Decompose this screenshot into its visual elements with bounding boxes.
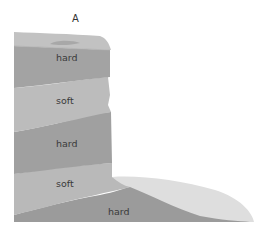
layer-label-soft-lower: soft — [56, 178, 74, 189]
diagram-title: A — [72, 13, 79, 24]
cliff-cross-section — [0, 0, 265, 237]
cliff-erosion-diagram: A hard soft hard soft hard — [0, 0, 265, 237]
layer-label-soft-upper: soft — [56, 95, 74, 106]
layer-label-hard-middle: hard — [56, 138, 78, 149]
layer-label-hard-bottom: hard — [108, 206, 130, 217]
layer-label-hard-top: hard — [56, 52, 78, 63]
